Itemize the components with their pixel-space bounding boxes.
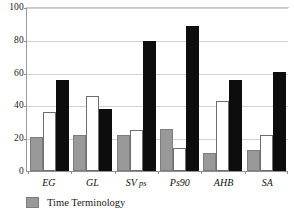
y-axis: 100 80 60 40 20 0	[0, 0, 24, 180]
bar-groups	[28, 8, 288, 171]
bar-group	[115, 8, 158, 171]
bar	[86, 96, 99, 171]
grouped-bar-chart: 100 80 60 40 20 0 EGGLSV psPs90AHBSA Tim…	[0, 0, 294, 217]
bar	[160, 129, 173, 171]
bar-group	[158, 8, 201, 171]
bar-group	[71, 8, 114, 171]
axis-group-separator	[115, 171, 116, 174]
bar-group	[28, 8, 71, 171]
y-tick-label-80: 80	[2, 36, 24, 46]
bar	[173, 148, 186, 171]
axis-group-separator	[71, 171, 72, 174]
bar	[203, 153, 216, 171]
category-label: AHB	[202, 176, 246, 192]
bar-group	[245, 8, 288, 171]
plot-area	[26, 8, 288, 172]
y-tick-label-100: 100	[2, 3, 24, 13]
category-label: EG	[27, 176, 71, 192]
y-tick-label-60: 60	[2, 69, 24, 79]
axis-group-separator	[158, 171, 159, 174]
category-label: SV ps	[114, 176, 158, 192]
bar	[216, 101, 229, 171]
bar	[43, 112, 56, 171]
y-tick-label-40: 40	[2, 101, 24, 111]
bar	[130, 130, 143, 171]
axis-group-separator	[287, 171, 288, 174]
bar	[229, 80, 242, 171]
bar	[273, 72, 286, 171]
legend-label-time-terminology: Time Terminology	[47, 197, 125, 208]
axis-group-separator	[201, 171, 202, 174]
bar	[73, 135, 86, 171]
bar	[30, 137, 43, 171]
bar-group	[201, 8, 244, 171]
bar	[186, 26, 199, 171]
bar	[260, 135, 273, 171]
bar	[56, 80, 69, 171]
bar	[117, 135, 130, 171]
bar	[143, 41, 156, 171]
category-label: GL	[71, 176, 115, 192]
axis-group-separator	[28, 171, 29, 174]
plot-wrapper: 100 80 60 40 20 0	[0, 0, 294, 180]
category-label: SA	[245, 176, 289, 192]
bar	[99, 109, 112, 171]
category-label: Ps90	[158, 176, 202, 192]
category-axis-labels: EGGLSV psPs90AHBSA	[27, 176, 289, 192]
bar	[247, 150, 260, 171]
axis-group-separator	[245, 171, 246, 174]
y-tick-label-20: 20	[2, 134, 24, 144]
chart-legend: Time Terminology	[26, 197, 125, 208]
y-tick-label-0: 0	[2, 167, 24, 177]
legend-swatch-time-terminology	[26, 197, 39, 208]
